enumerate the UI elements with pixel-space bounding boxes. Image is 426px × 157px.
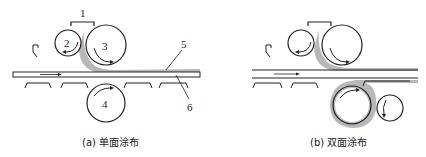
label-4: 4 bbox=[102, 98, 108, 110]
panel-a: 1 2 3 4 5 6 (a) 单面涂布 bbox=[13, 7, 200, 148]
feed-guide bbox=[33, 45, 38, 57]
rotation-arrow-4 bbox=[94, 88, 110, 96]
label-3: 3 bbox=[102, 40, 108, 52]
label-1: 1 bbox=[80, 7, 86, 19]
label-6: 6 bbox=[187, 101, 193, 113]
coating-layer-bottom-b bbox=[330, 80, 418, 128]
feed-guide-b bbox=[266, 45, 271, 57]
roll-large-top-b bbox=[322, 25, 362, 65]
caption-a: (a) 单面涂布 bbox=[82, 136, 139, 148]
label-5: 5 bbox=[181, 38, 187, 50]
doctor-bracket-b bbox=[308, 22, 331, 26]
caption-b: (b) 双面涂布 bbox=[310, 136, 367, 148]
roll-large-bottom-b bbox=[333, 86, 371, 124]
doctor-bracket bbox=[71, 22, 94, 26]
roll-small-bottom-b bbox=[377, 95, 403, 121]
web-direction-arrow-b bbox=[296, 73, 300, 76]
label-2: 2 bbox=[64, 37, 70, 49]
panel-b: (b) 双面涂布 bbox=[252, 22, 418, 148]
coating-diagram: 1 2 3 4 5 6 (a) 单面涂布 bbox=[0, 0, 426, 157]
